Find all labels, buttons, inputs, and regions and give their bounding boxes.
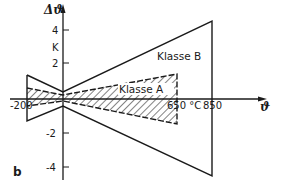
x-label-650: 650 °C [167,100,201,111]
y-tick-4: 4 [52,25,58,36]
class-b-label: Klasse B [157,50,201,62]
diagram-svg: Δϑ 4 K 2 -2 -4 -200 650 °C 850 ϑ Klasse … [0,0,282,191]
x-label-neg200: -200 [10,100,33,111]
y-tick-neg2: -2 [46,128,56,139]
y-tick-2: 2 [52,58,58,69]
y-tick-neg4: -4 [46,162,56,173]
y-axis-unit: K [52,42,59,53]
x-axis-symbol: ϑ [260,100,270,114]
y-axis-symbol: Δϑ [43,3,64,17]
tolerance-diagram: Δϑ 4 K 2 -2 -4 -200 650 °C 850 ϑ Klasse … [0,0,282,191]
x-label-850: 850 [203,100,222,111]
panel-label: b [13,165,22,179]
class-a-label: Klasse A [119,83,164,95]
